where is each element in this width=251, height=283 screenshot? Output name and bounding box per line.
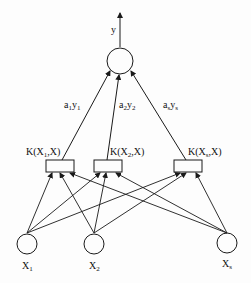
kernel-label-3: K(Xs,X) — [188, 146, 222, 159]
input-label-1: X1 — [22, 260, 33, 273]
output-node — [107, 48, 133, 74]
output-label: y — [111, 24, 116, 35]
input-label-3: Xs — [222, 258, 232, 271]
weight-label-1: a1y1 — [64, 99, 81, 112]
kernel-box-3 — [174, 160, 202, 172]
input-node-1 — [17, 234, 37, 254]
kernel-box-2 — [94, 160, 122, 172]
input-label-2: X2 — [89, 260, 100, 273]
svm-network-diagram: y a1y1 a2y2 asys K(X1,X) K(X2,X) K(Xs,X)… — [0, 0, 251, 283]
input-node-2 — [84, 234, 104, 254]
weight-edge-1 — [62, 71, 110, 160]
kernel-box-1 — [46, 160, 74, 172]
weight-label-2: a2y2 — [119, 99, 136, 112]
input-node-3 — [217, 233, 237, 253]
weight-label-3: asys — [163, 99, 178, 112]
kernel-label-2: K(X2,X) — [110, 146, 144, 159]
input-edges — [27, 173, 227, 233]
kernel-label-1: K(X1,X) — [26, 146, 60, 159]
